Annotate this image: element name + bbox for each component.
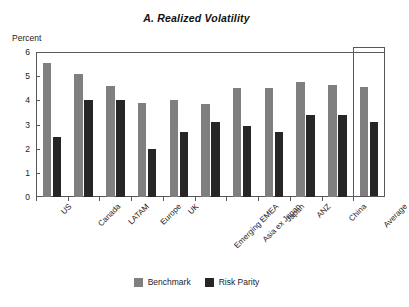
legend-swatch-icon	[134, 278, 143, 287]
x-tick-label-japan: Japan	[284, 202, 306, 224]
y-tick-mark-4	[36, 100, 40, 101]
x-tick-label-latam: LATAM	[127, 202, 151, 226]
x-tick-label-uk: UK	[186, 202, 200, 216]
legend-item-risk-parity[interactable]: Risk Parity	[205, 277, 260, 287]
legend-label: Risk Parity	[219, 277, 260, 287]
legend-label: Benchmark	[148, 277, 191, 287]
x-tick-mark	[322, 197, 323, 201]
x-tick-mark	[226, 197, 227, 201]
x-tick-label-canada: Canada	[96, 202, 122, 228]
y-tick-mark-5	[36, 76, 40, 77]
x-tick-mark	[290, 197, 291, 201]
legend-item-benchmark[interactable]: Benchmark	[134, 277, 191, 287]
y-tick-mark-2	[36, 149, 40, 150]
legend-swatch-icon	[205, 278, 214, 287]
x-tick-mark	[36, 197, 37, 201]
x-tick-mark	[99, 197, 100, 201]
x-tick-mark	[163, 197, 164, 201]
x-tick-label-china: China	[348, 202, 369, 223]
y-tick-mark-3	[36, 125, 40, 126]
chart-legend: BenchmarkRisk Parity	[0, 277, 393, 287]
x-tick-label-anz: ANZ	[314, 202, 332, 220]
x-tick-mark	[258, 197, 259, 201]
x-tick-label-us: US	[59, 202, 73, 216]
x-tick-label-average: Average	[382, 202, 409, 229]
x-tick-mark	[195, 197, 196, 201]
x-tick-mark	[353, 197, 354, 201]
x-tick-mark	[68, 197, 69, 201]
x-tick-label-europe: Europe	[159, 202, 184, 227]
y-tick-mark-1	[36, 173, 40, 174]
x-tick-mark	[131, 197, 132, 201]
